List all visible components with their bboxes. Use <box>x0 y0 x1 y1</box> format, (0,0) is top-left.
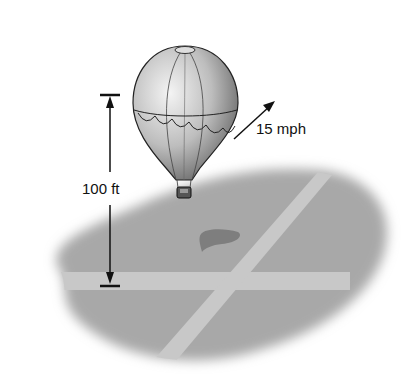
ground-field <box>20 169 387 380</box>
diagram-canvas <box>0 0 416 386</box>
speed-label: 15 mph <box>256 120 306 137</box>
hot-air-balloon <box>133 46 238 198</box>
height-label: 100 ft <box>82 180 120 197</box>
road-horizontal <box>20 272 350 290</box>
